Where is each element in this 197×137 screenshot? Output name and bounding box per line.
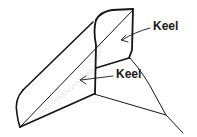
shading-upper (96, 40, 104, 60)
inner-vertical-edge (95, 20, 97, 94)
hull-left-curve (16, 90, 23, 127)
keel-label-lower: Keel (116, 67, 141, 81)
projection-line-lower (94, 94, 166, 115)
shading-lower (36, 66, 95, 116)
upper-panel-top-curve (96, 9, 133, 20)
arrow-upper (122, 28, 150, 40)
upper-panel-right-edge (129, 9, 133, 58)
keel-diagram: Keel Keel (0, 0, 197, 137)
keel-label-upper: Keel (153, 19, 178, 33)
